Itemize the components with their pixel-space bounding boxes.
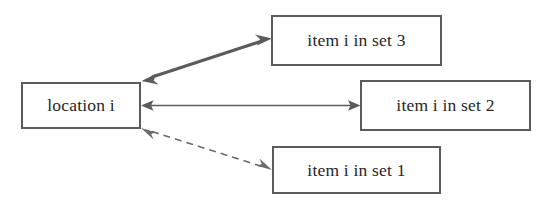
edge-location-set3[interactable] — [142, 35, 273, 85]
node-item-in-set-1[interactable]: item i in set 1 — [272, 146, 441, 194]
node-label: item i in set 3 — [307, 30, 405, 51]
node-item-in-set-2[interactable]: item i in set 2 — [360, 80, 531, 131]
edge-location-set1[interactable] — [141, 128, 272, 170]
node-label: item i in set 1 — [307, 160, 405, 181]
node-label: location i — [47, 95, 115, 116]
edge-location-set2[interactable] — [141, 100, 361, 111]
diagram-canvas: location i item i in set 3 item i in set… — [0, 0, 536, 215]
arrowhead-to-location — [141, 128, 156, 140]
node-location-i[interactable]: location i — [21, 82, 141, 129]
node-label: item i in set 2 — [396, 95, 494, 116]
node-item-in-set-3[interactable]: item i in set 3 — [271, 15, 442, 66]
arrowhead-to-set1 — [257, 158, 272, 170]
